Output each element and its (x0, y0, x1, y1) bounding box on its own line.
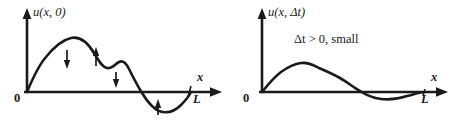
y-axis-right (258, 8, 267, 92)
panel-initial-condition: u(x, 0) x L 0 (0, 0, 235, 125)
curve-u-x-0 (27, 38, 191, 113)
figure-wave-evolution: u(x, 0) x L 0 u(x, Δt) Δt > 0, small x L (0, 0, 469, 125)
curve-u-x-dt (262, 63, 425, 100)
origin-label-right: 0 (243, 92, 249, 105)
x-axis-label-right: x (431, 71, 437, 84)
arrow-down-2 (113, 72, 119, 88)
origin-label-left: 0 (14, 92, 20, 105)
panel-after-small-time: u(x, Δt) Δt > 0, small x L 0 (235, 0, 469, 125)
arrow-down-1 (64, 50, 70, 69)
x-axis-label-left: x (197, 71, 203, 84)
arrow-up-1 (93, 47, 99, 66)
note-delta-t: Δt > 0, small (294, 33, 358, 46)
x-endpoint-label-left: L (193, 93, 201, 106)
y-axis-label-left: u(x, 0) (33, 6, 66, 19)
x-endpoint-label-right: L (421, 93, 429, 106)
y-axis-label-right: u(x, Δt) (268, 6, 305, 19)
y-axis-left (23, 8, 32, 92)
